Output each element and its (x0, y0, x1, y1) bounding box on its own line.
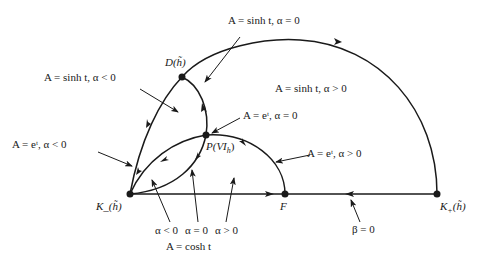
node-p (203, 132, 210, 139)
node-d (179, 74, 186, 81)
label-exp-alpha-pos: A = eᵗ, α > 0 (307, 147, 362, 159)
label-beta-zero: β = 0 (352, 223, 375, 235)
label-node-k-plus: K+(h̃) (440, 200, 466, 215)
label-cosh: A = cosh t (166, 240, 211, 252)
label-alpha-pos: α > 0 (215, 224, 238, 236)
phase-diagram (0, 0, 486, 259)
label-alpha-neg: α < 0 (155, 224, 178, 236)
label-node-p: P(VIh) (206, 140, 234, 155)
k-to-p-upper (130, 135, 206, 194)
label-node-k-plus-tail: (h̃) (453, 200, 466, 212)
label-sinh-alpha-zero: A = sinh t, α = 0 (228, 14, 300, 26)
label-node-f: F (280, 200, 287, 212)
label-node-d: D(h̃) (165, 56, 186, 68)
label-exp-alpha-neg: A = eᵗ, α < 0 (12, 138, 67, 150)
label-node-k-minus: K_(h̃) (96, 200, 122, 212)
label-node-p-close: ) (231, 140, 235, 152)
k-to-p-lower (130, 135, 206, 194)
label-exp-alpha-zero: A = eᵗ, α = 0 (243, 109, 298, 121)
label-alpha-zero: α = 0 (185, 224, 208, 236)
label-sinh-alpha-pos: A = sinh t, α > 0 (275, 82, 347, 94)
node-k-plus (434, 191, 441, 198)
label-sinh-alpha-neg: A = sinh t, α < 0 (44, 71, 116, 83)
node-f (282, 191, 289, 198)
node-k-minus (127, 191, 134, 198)
label-node-p-main: P(VI (206, 140, 227, 152)
